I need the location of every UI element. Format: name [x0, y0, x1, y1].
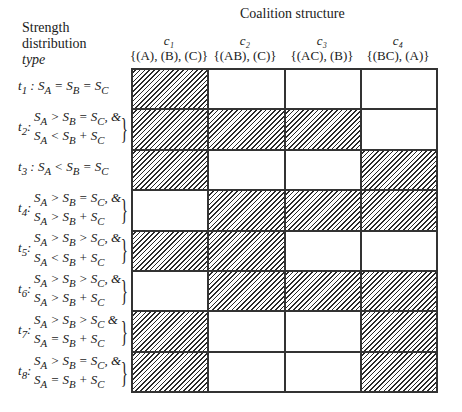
row-id: t2:	[18, 119, 31, 139]
row-id: t7:	[18, 322, 31, 342]
grid-cell-t1-c3-blank	[285, 69, 361, 109]
column-id: c₄	[350, 34, 446, 48]
grid-cell-t5-c4-blank	[361, 231, 437, 271]
row-condition: SA > SB = SC, &SA = SB + SC	[34, 353, 121, 392]
grid-cell-t7-c1-hatched	[132, 311, 208, 351]
grid-cell-t7-c2-blank	[208, 311, 284, 351]
grid-cell-t5-c1-hatched	[132, 231, 208, 271]
row-id: t5:	[18, 240, 31, 260]
grid-cell-t3-c2-blank	[208, 150, 284, 190]
grid-cell-t8-c1-hatched	[132, 352, 208, 392]
grid-cell-t8-c2-blank	[208, 352, 284, 392]
grid-cell-t1-c2-blank	[208, 69, 284, 109]
row-label-t5: t5: SA > SB > SC, &SA < SB + SC }	[18, 230, 130, 270]
row-condition: t1 : SA = SB = SC	[18, 78, 108, 98]
grid-cell-t6-c4-hatched	[361, 271, 437, 311]
row-condition: SA > SB = SC, &SA < SB + SC	[34, 109, 121, 148]
grid-cell-t2-c1-hatched	[132, 109, 208, 149]
row-header-line-2: distribution	[22, 36, 87, 52]
grid-cell-t6-c1-blank	[132, 271, 208, 311]
grid-cell-t1-c1-hatched	[132, 69, 208, 109]
column-header-c4: c₄ {(BC), (A)}	[350, 34, 446, 64]
row-condition: SA > SB = SC, &SA > SB + SC	[34, 190, 121, 229]
grid-cell-t5-c2-hatched	[208, 231, 284, 271]
row-label-t4: t4: SA > SB = SC, &SA > SB + SC }	[18, 189, 130, 230]
row-condition: SA > SB > SC, &SA < SB + SC	[34, 230, 121, 269]
row-label-t3: t3 : SA < SB = SC	[18, 149, 130, 189]
row-header-line-1: Strength	[22, 20, 87, 36]
row-id: t6:	[18, 281, 31, 301]
column-structure: {(BC), (A)}	[350, 48, 446, 64]
grid-cell-t2-c4-blank	[361, 109, 437, 149]
grid-cell-t2-c3-hatched	[285, 109, 361, 149]
grid-cell-t3-c3-blank	[285, 150, 361, 190]
grid-cell-t3-c1-hatched	[132, 150, 208, 190]
grid-cell-t6-c3-hatched	[285, 271, 361, 311]
row-label-t1: t1 : SA = SB = SC	[18, 68, 130, 108]
grid-cell-t7-c3-blank	[285, 311, 361, 351]
grid-cell-t2-c2-hatched	[208, 109, 284, 149]
grid-cell-t6-c2-hatched	[208, 271, 284, 311]
brace-icon: }	[121, 235, 128, 265]
grid-cell-t8-c3-blank	[285, 352, 361, 392]
brace-icon: }	[121, 276, 128, 306]
brace-icon: }	[121, 317, 128, 347]
row-header: Strength distribution type	[22, 20, 87, 68]
brace-icon: }	[121, 114, 128, 144]
row-label-t7: t7: SA > SB > SC &SA = SB + SC }	[18, 311, 130, 352]
grid-cell-t3-c4-hatched	[361, 150, 437, 190]
row-label-t6: t6: SA > SB > SC, &SA > SB + SC }	[18, 270, 130, 311]
grid-cell-t4-c4-hatched	[361, 190, 437, 230]
row-id: t8:	[18, 363, 31, 383]
grid-cell-t4-c1-blank	[132, 190, 208, 230]
grid-cell-t8-c4-hatched	[361, 352, 437, 392]
brace-icon: }	[121, 358, 128, 388]
coalition-grid	[131, 68, 438, 393]
grid-cell-t4-c3-hatched	[285, 190, 361, 230]
row-condition: t3 : SA < SB = SC	[18, 159, 108, 179]
grid-cell-t5-c3-blank	[285, 231, 361, 271]
grid-cell-t7-c4-hatched	[361, 311, 437, 351]
row-condition: SA > SB > SC, &SA > SB + SC	[34, 271, 121, 310]
diagram-title: Coalition structure	[240, 6, 345, 22]
grid-cell-t1-c4-blank	[361, 69, 437, 109]
brace-icon: }	[121, 195, 128, 225]
row-label-t8: t8: SA > SB = SC, &SA = SB + SC }	[18, 352, 130, 393]
row-header-line-3: type	[22, 52, 87, 68]
row-condition: SA > SB > SC &SA = SB + SC	[34, 312, 118, 351]
row-id: t4:	[18, 200, 31, 220]
grid-cell-t4-c2-hatched	[208, 190, 284, 230]
row-label-t2: t2: SA > SB = SC, &SA < SB + SC }	[18, 108, 130, 149]
